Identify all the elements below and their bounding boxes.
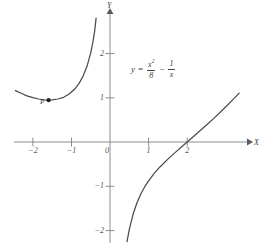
equation-equals-sign: = [138,64,143,74]
x-tick-label-neg2: −2 [25,146,41,155]
equation-second-denominator: x [168,69,176,79]
x-tick-label-neg1: −1 [64,146,80,155]
equation-first-denominator: 8 [147,70,155,80]
equation-annotation: y = x2 8 − 1 x [131,59,175,80]
equation-second-fraction: 1 x [167,60,175,79]
equation-first-numerator: x2 [146,59,156,70]
curve-left-branch [15,18,96,100]
equation-first-numerator-exponent: 2 [152,58,155,64]
x-axis-label: X [254,138,259,147]
y-tick-label-neg1: −1 [92,181,104,190]
point-P-label: P [40,98,44,106]
equation-second-numerator: 1 [167,60,175,69]
origin-label: 0 [99,146,115,155]
curve-right-branch [127,93,239,242]
x-axis-arrow-icon [247,139,253,146]
x-tick-label-2: 2 [179,146,195,155]
equation-minus-sign: − [159,64,164,74]
y-tick-label-neg2: −2 [92,226,104,235]
coordinate-plot [0,0,266,247]
y-tick-label-2: 2 [92,49,104,58]
equation-first-fraction: x2 8 [146,59,156,80]
y-axis-label: Y [107,1,112,10]
graph-figure: X Y −2 −1 0 1 2 2 1 −1 −2 P y = x2 8 − 1… [0,0,266,247]
x-tick-label-1: 1 [141,146,157,155]
equation-lhs: y [131,64,135,74]
point-P-marker [47,98,51,102]
y-tick-label-1: 1 [92,93,104,102]
